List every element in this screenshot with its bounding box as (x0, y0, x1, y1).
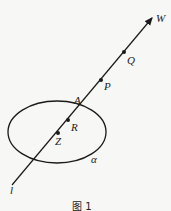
line-l (12, 18, 152, 185)
label-l: l (10, 184, 13, 196)
label-w: W (156, 12, 166, 24)
point-q (122, 50, 126, 54)
point-r (66, 118, 70, 122)
label-z: Z (55, 135, 62, 147)
point-p (99, 78, 103, 82)
label-alpha: α (91, 153, 97, 165)
figure-caption: 图 1 (72, 201, 92, 211)
label-p: P (103, 80, 111, 92)
label-r: R (70, 121, 78, 133)
diagram-canvas: W Q P A R Z α l 图 1 (0, 0, 171, 211)
label-q: Q (127, 54, 135, 66)
label-a: A (73, 94, 81, 106)
